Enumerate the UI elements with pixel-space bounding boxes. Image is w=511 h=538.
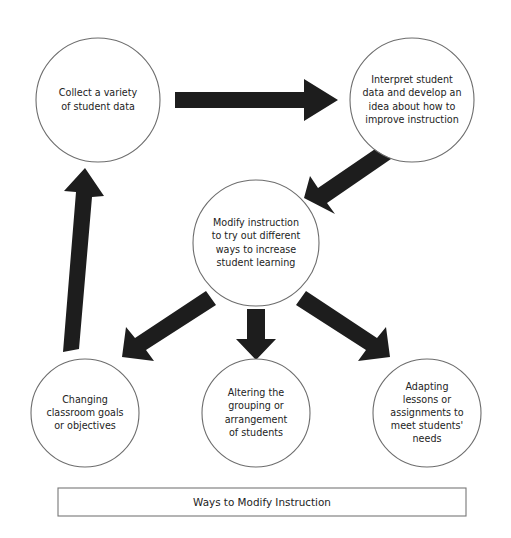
diagram-figure: Collect a varietyof student data Interpr… <box>0 0 511 538</box>
arrow-modify-to-adapting <box>296 291 390 361</box>
node-altering-grouping[interactable]: Altering thegrouping orarrangementof stu… <box>202 359 310 467</box>
node-modify-instruction[interactable]: Modify instructionto try out differentwa… <box>193 180 319 306</box>
node-adapting-lessons[interactable]: Adaptinglessons orassignments tomeet stu… <box>373 359 481 467</box>
arrow-collect-to-interpret <box>175 79 338 121</box>
caption-box: Ways to Modify Instruction <box>58 488 466 516</box>
node-collect-data[interactable]: Collect a varietyof student data <box>36 38 160 162</box>
caption-label: Ways to Modify Instruction <box>193 496 331 508</box>
arrow-changing-to-collect <box>63 168 104 352</box>
arrow-modify-to-altering <box>236 309 276 360</box>
arrow-modify-to-changing <box>122 291 216 361</box>
arrow-interpret-to-modify <box>304 145 391 214</box>
node-interpret-data[interactable]: Interpret studentdata and develop anidea… <box>350 38 474 162</box>
instruction-cycle-diagram: Collect a varietyof student data Interpr… <box>0 0 511 538</box>
node-changing-goals[interactable]: Changingclassroom goalsor objectives <box>31 359 139 467</box>
